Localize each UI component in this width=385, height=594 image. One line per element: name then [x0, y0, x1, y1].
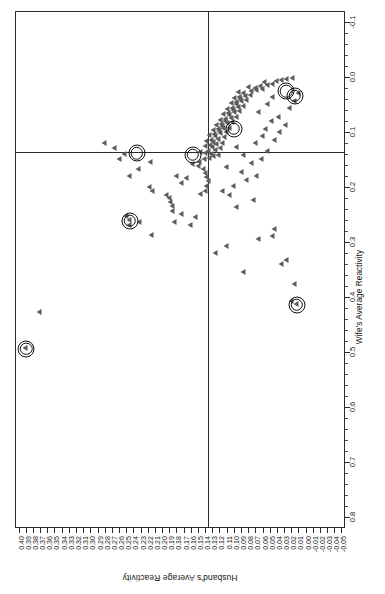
- x-axis-minor-tick: [345, 308, 348, 309]
- x-axis-minor-tick: [345, 231, 348, 232]
- x-axis-tick-label: 0.5: [349, 347, 357, 358]
- data-point-marker: [112, 145, 117, 151]
- y-axis-tick: [176, 528, 177, 533]
- x-axis-minor-tick: [345, 220, 348, 221]
- data-point-marker: [250, 197, 255, 203]
- data-point-marker: [135, 166, 140, 172]
- x-axis-minor-tick: [345, 176, 348, 177]
- y-axis-tick: [105, 528, 106, 533]
- data-point-marker: [254, 173, 259, 179]
- y-axis-tick: [284, 528, 285, 533]
- y-axis-tick: [54, 528, 55, 533]
- x-axis-minor-tick: [345, 319, 348, 320]
- scatter-plot-figure: -0.10.00.10.20.30.40.50.60.70.8 Wife's A…: [0, 0, 385, 594]
- x-axis-minor-tick: [345, 165, 348, 166]
- x-axis-minor-tick: [345, 429, 348, 430]
- y-axis-tick: [47, 528, 48, 533]
- y-axis-tick: [327, 528, 328, 533]
- data-point-marker: [212, 250, 217, 256]
- data-point-marker: [291, 281, 296, 287]
- data-point-marker: [218, 145, 223, 151]
- data-point-marker: [173, 173, 178, 179]
- data-point-marker: [234, 204, 239, 210]
- y-axis-tick: [313, 528, 314, 533]
- highlight-ring: [227, 122, 240, 135]
- y-axis-title: Husband's Average Reactivity: [15, 573, 345, 583]
- y-axis: 0.400.390.380.370.360.350.340.330.320.31…: [15, 528, 345, 540]
- y-axis-tick: [320, 528, 321, 533]
- data-point-marker: [284, 256, 289, 262]
- x-axis-minor-tick: [345, 198, 348, 199]
- x-axis-tick-label: 0.2: [349, 182, 357, 193]
- data-point-marker: [200, 166, 205, 172]
- y-axis-tick: [40, 528, 41, 533]
- y-axis-tick: [341, 528, 342, 533]
- data-point-marker: [171, 219, 176, 225]
- data-point-marker: [219, 188, 224, 194]
- data-point-marker: [241, 90, 246, 96]
- x-axis-minor-tick: [345, 418, 348, 419]
- x-axis-minor-tick: [345, 275, 348, 276]
- data-point-marker: [272, 226, 277, 232]
- y-axis-tick: [83, 528, 84, 533]
- y-axis-tick: [169, 528, 170, 533]
- x-axis: -0.10.00.10.20.30.40.50.60.70.8: [345, 11, 355, 528]
- x-axis-minor-tick: [345, 495, 348, 496]
- x-axis-minor-tick: [345, 506, 348, 507]
- y-axis-tick: [76, 528, 77, 533]
- x-axis-minor-tick: [345, 99, 348, 100]
- x-axis-minor-tick: [345, 66, 348, 67]
- data-point-marker: [270, 94, 275, 100]
- x-axis-minor-tick: [345, 385, 348, 386]
- x-axis-tick-label: 0.0: [349, 72, 357, 83]
- x-axis-minor-tick: [345, 451, 348, 452]
- y-axis-tick: [19, 528, 20, 533]
- data-point-marker: [184, 175, 189, 181]
- data-point-marker: [231, 183, 236, 189]
- x-axis-tick-label: 0.8: [349, 512, 357, 523]
- highlight-ring: [187, 149, 200, 162]
- y-axis-tick: [155, 528, 156, 533]
- data-point-marker: [255, 109, 260, 115]
- y-axis-tick: [298, 528, 299, 533]
- y-axis-tick: [126, 528, 127, 533]
- y-axis-tick: [112, 528, 113, 533]
- y-axis-tick: [255, 528, 256, 533]
- x-axis-tick-label: 0.6: [349, 402, 357, 413]
- y-axis-tick: [26, 528, 27, 533]
- data-point-marker: [275, 113, 280, 119]
- data-point-marker: [255, 235, 260, 241]
- data-point-marker: [224, 243, 229, 249]
- highlight-ring: [123, 215, 136, 228]
- data-point-marker: [270, 233, 275, 239]
- x-axis-tick-label: 0.1: [349, 127, 357, 138]
- data-point-marker: [252, 140, 257, 146]
- data-point-marker: [235, 89, 240, 95]
- x-axis-minor-tick: [345, 440, 348, 441]
- data-point-marker: [268, 118, 273, 124]
- x-axis-tick-label: 0.7: [349, 457, 357, 468]
- data-point-marker: [234, 144, 239, 150]
- y-axis-tick: [248, 528, 249, 533]
- data-point-marker: [248, 160, 253, 166]
- x-axis-minor-tick: [345, 209, 348, 210]
- highlight-ring: [288, 89, 301, 102]
- highlight-ring: [291, 298, 304, 311]
- x-axis-minor-tick: [345, 330, 348, 331]
- y-axis-tick: [191, 528, 192, 533]
- y-axis-tick: [227, 528, 228, 533]
- y-axis-tick: [148, 528, 149, 533]
- x-axis-minor-tick: [345, 264, 348, 265]
- y-axis-tick: [62, 528, 63, 533]
- data-point-marker: [262, 125, 267, 131]
- data-point-marker: [121, 151, 126, 157]
- data-point-marker: [148, 232, 153, 238]
- data-point-marker: [148, 158, 153, 164]
- data-point-marker: [193, 213, 198, 219]
- data-point-marker: [188, 222, 193, 228]
- y-axis-tick: [141, 528, 142, 533]
- data-point-marker: [261, 79, 266, 85]
- data-point-marker: [102, 140, 107, 146]
- y-axis-tick: [263, 528, 264, 533]
- y-axis-tick: [198, 528, 199, 533]
